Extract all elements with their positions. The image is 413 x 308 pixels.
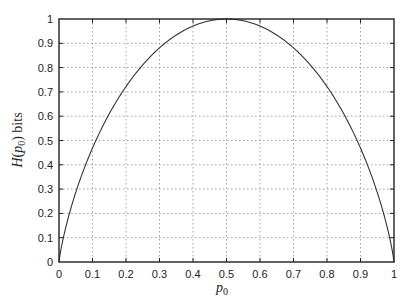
x-tick-label: 0.9 [353, 268, 368, 280]
x-tick-label: 0.2 [118, 268, 133, 280]
x-tick-labels: 00.10.20.30.40.50.60.70.80.91 [56, 268, 397, 280]
entropy-chart: 00.10.20.30.40.50.60.70.80.91 00.10.20.3… [0, 0, 413, 308]
x-tick-label: 0 [56, 268, 62, 280]
x-tick-label: 0.8 [319, 268, 334, 280]
x-tick-label: 0.3 [152, 268, 167, 280]
y-tick-label: 0.8 [38, 62, 53, 74]
y-tick-label: 0.4 [38, 159, 53, 171]
x-tick-label: 0.1 [85, 268, 100, 280]
x-tick-label: 1 [391, 268, 397, 280]
x-axis-title: p0 [215, 280, 228, 297]
y-tick-label: 1 [47, 13, 53, 25]
x-tick-label: 0.6 [252, 268, 267, 280]
y-tick-label: 0 [47, 256, 53, 268]
y-tick-label: 0.1 [38, 232, 53, 244]
y-tick-label: 0.9 [38, 37, 53, 49]
y-axis-title: H(p0) bits [10, 112, 27, 168]
y-tick-label: 0.6 [38, 110, 53, 122]
y-tick-label: 0.3 [38, 183, 53, 195]
x-tick-label: 0.4 [185, 268, 200, 280]
grid-lines [59, 19, 394, 262]
y-tick-label: 0.5 [38, 135, 53, 147]
x-tick-label: 0.7 [286, 268, 301, 280]
y-tick-label: 0.2 [38, 207, 53, 219]
x-tick-label: 0.5 [219, 268, 234, 280]
y-tick-labels: 00.10.20.30.40.50.60.70.80.91 [38, 13, 53, 268]
y-tick-label: 0.7 [38, 86, 53, 98]
